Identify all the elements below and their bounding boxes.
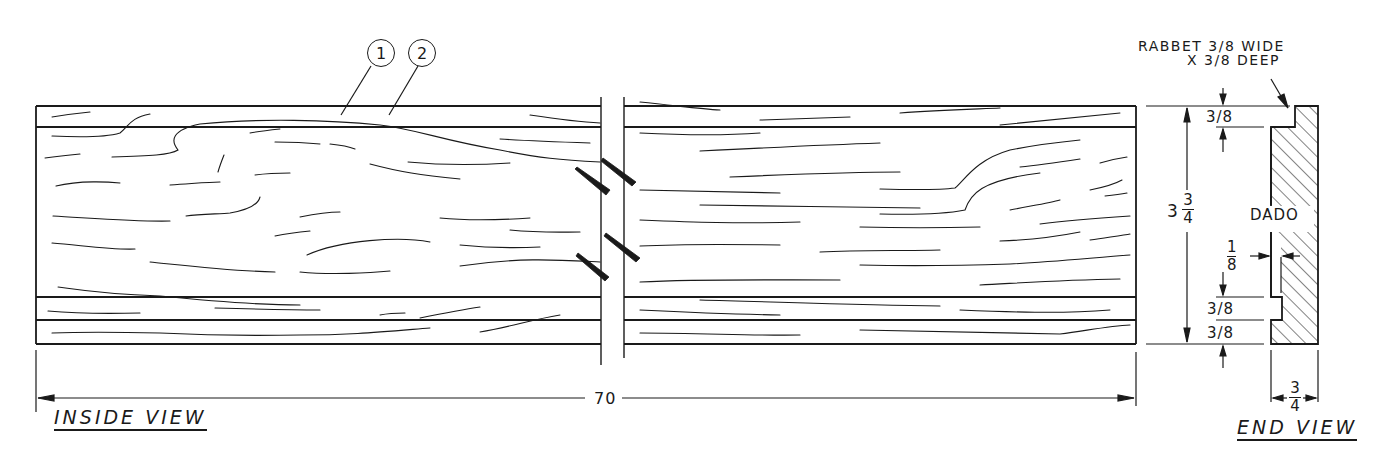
width-denominator: 4 bbox=[1290, 399, 1300, 414]
part-balloon-1: 1 bbox=[367, 39, 395, 67]
length-dimension-line bbox=[36, 350, 1136, 412]
height-dimension-fraction: 3 4 bbox=[1182, 193, 1194, 226]
wood-grain bbox=[45, 102, 1130, 335]
callout-leaders bbox=[341, 66, 418, 115]
board-left-segment bbox=[36, 106, 601, 344]
height-numerator: 3 bbox=[1183, 193, 1193, 208]
groove-width-dimension: 3/8 bbox=[1207, 300, 1234, 318]
groove-bottom-dimension: 3/8 bbox=[1207, 324, 1234, 342]
part-balloon-2: 2 bbox=[408, 39, 436, 67]
end-view-section bbox=[1264, 106, 1318, 344]
rabbet-note-line2: X 3/8 DEEP bbox=[1187, 53, 1280, 67]
end-view-title: END VIEW bbox=[1237, 416, 1357, 441]
inside-view-board bbox=[36, 97, 1136, 365]
width-numerator: 3 bbox=[1290, 381, 1300, 396]
height-denominator: 4 bbox=[1183, 211, 1193, 226]
length-dimension-label: 70 bbox=[592, 389, 618, 408]
dado-denominator: 8 bbox=[1227, 258, 1237, 273]
part-number-2: 2 bbox=[417, 44, 427, 63]
dado-numerator: 1 bbox=[1227, 240, 1237, 255]
dado-depth-dimension: 1 8 bbox=[1227, 240, 1237, 273]
dado-label: DADO bbox=[1250, 206, 1299, 224]
shop-drawing bbox=[0, 0, 1394, 469]
height-dimension-whole: 3 bbox=[1167, 201, 1178, 221]
part-number-1: 1 bbox=[376, 44, 386, 63]
break-lines bbox=[575, 97, 640, 365]
rabbet-note-line1: RABBET 3/8 WIDE bbox=[1138, 39, 1285, 53]
rabbet-depth-dimension: 3/8 bbox=[1206, 108, 1233, 126]
inside-view-title: INSIDE VIEW bbox=[54, 406, 207, 431]
end-width-dimension: 3 4 bbox=[1289, 381, 1301, 414]
board-right-segment bbox=[624, 106, 1136, 344]
